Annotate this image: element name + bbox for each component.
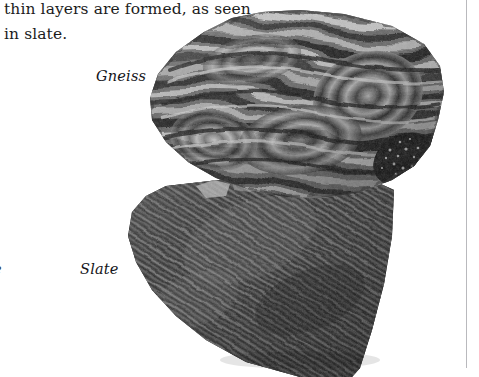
- rock-specimen-photograph: [0, 0, 479, 377]
- specimen-photo-svg: [0, 0, 479, 377]
- specimen-shadow: [220, 351, 380, 369]
- vertical-page-rule: [466, 0, 467, 368]
- slate-specimen: [110, 165, 410, 377]
- textbook-figure-page: thin layers are formed, as seen in slate…: [0, 0, 479, 377]
- specimen-label-slate: Slate: [80, 261, 119, 277]
- specimen-label-gneiss: Gneiss: [96, 68, 146, 84]
- clipped-label-fragment: e: [0, 261, 2, 277]
